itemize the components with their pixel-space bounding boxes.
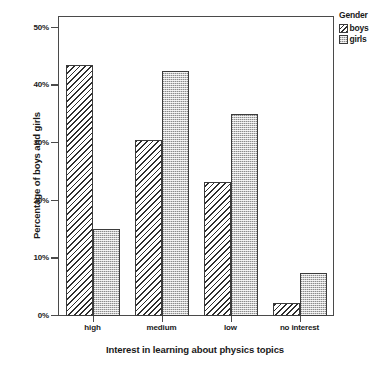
y-axis-tick-label: 10% xyxy=(34,252,49,264)
bars-layer xyxy=(58,16,334,316)
bar-group xyxy=(265,16,334,316)
y-axis-tick-mark xyxy=(51,257,58,258)
legend-label-girls: girls xyxy=(350,35,367,44)
x-axis-tick-label: medium xyxy=(122,323,202,332)
y-axis-tick-mark xyxy=(51,200,58,201)
y-axis-tick: 50% xyxy=(0,22,58,34)
bar-girls-low[interactable] xyxy=(231,114,258,316)
y-axis-tick-label: 40% xyxy=(34,79,49,91)
legend-label-boys: boys xyxy=(350,24,369,33)
x-axis-tick-mark xyxy=(231,316,232,322)
x-axis-title: Interest in learning about physics topic… xyxy=(0,344,390,355)
y-axis-tick-mark xyxy=(51,315,58,316)
y-axis-tick: 10% xyxy=(0,252,58,264)
bar-boys-medium[interactable] xyxy=(135,140,162,316)
y-axis-tick-mark xyxy=(51,142,58,143)
legend-swatch-girls-icon xyxy=(339,35,348,44)
bar-group xyxy=(127,16,196,316)
y-axis-tick: 20% xyxy=(0,195,58,207)
x-axis-tick-label: high xyxy=(53,323,133,332)
legend-item-boys[interactable]: boys xyxy=(339,24,390,33)
y-axis-tick-label: 0% xyxy=(38,310,49,322)
y-axis-tick-mark xyxy=(51,27,58,28)
bar-girls-high[interactable] xyxy=(93,229,120,316)
legend-item-girls[interactable]: girls xyxy=(339,35,390,44)
y-axis-tick-label: 50% xyxy=(34,22,49,34)
bar-girls-no-interest[interactable] xyxy=(300,273,327,316)
legend: Gender boys girls xyxy=(339,10,390,46)
y-axis-tick: 0% xyxy=(0,310,58,322)
x-axis-tick-label: no interest xyxy=(260,323,340,332)
x-axis-tick-label: low xyxy=(191,323,271,332)
y-axis-tick-mark xyxy=(51,84,58,85)
y-axis-tick: 30% xyxy=(0,137,58,149)
y-axis-tick-label: 30% xyxy=(34,137,49,149)
x-axis-tick-mark xyxy=(93,316,94,322)
y-axis-title: Percentage of boys and girls xyxy=(31,76,42,276)
bar-girls-medium[interactable] xyxy=(162,71,189,316)
bar-boys-low[interactable] xyxy=(204,182,231,316)
bar-chart: Percentage of boys and girls 0%10%20%30%… xyxy=(0,0,390,368)
x-axis-tick-mark xyxy=(300,316,301,322)
bar-group xyxy=(196,16,265,316)
bar-boys-no-interest[interactable] xyxy=(273,303,300,316)
x-axis-tick-mark xyxy=(162,316,163,322)
y-axis-tick: 40% xyxy=(0,79,58,91)
bar-group xyxy=(58,16,127,316)
legend-swatch-boys-icon xyxy=(339,24,348,33)
bar-boys-high[interactable] xyxy=(66,65,93,316)
legend-title: Gender xyxy=(339,10,390,20)
y-axis-tick-label: 20% xyxy=(34,195,49,207)
